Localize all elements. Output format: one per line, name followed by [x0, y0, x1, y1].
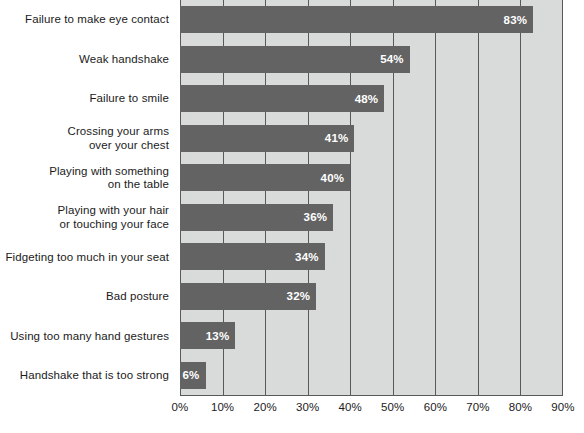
bar-row: 41% — [180, 119, 562, 159]
bar-row: 6% — [180, 356, 562, 396]
x-tick-label: 40% — [339, 401, 362, 413]
x-tick-label: 50% — [381, 401, 404, 413]
bar-row: 48% — [180, 79, 562, 119]
bar: 32% — [180, 283, 316, 310]
bar-row: 83% — [180, 0, 562, 40]
category-label: Failure to make eye contact — [0, 0, 176, 40]
bar-row: 34% — [180, 237, 562, 277]
bar-value-label: 41% — [325, 132, 355, 144]
bar-value-label: 32% — [287, 290, 317, 302]
x-tick-label: 10% — [211, 401, 234, 413]
bar: 40% — [180, 164, 350, 191]
category-label: Handshake that is too strong — [0, 356, 176, 396]
bar-row: 32% — [180, 277, 562, 317]
bars-layer: 83%54%48%41%40%36%34%32%13%6% — [180, 0, 562, 395]
x-tick-label: 90% — [551, 401, 574, 413]
bar-row: 54% — [180, 40, 562, 80]
category-label: Fidgeting too much in your seat — [0, 238, 176, 278]
bar-value-label: 48% — [355, 93, 385, 105]
category-label: Playing with something on the table — [0, 158, 176, 198]
bar: 41% — [180, 125, 354, 152]
category-label: Weak handshake — [0, 40, 176, 80]
x-tick-label: 30% — [296, 401, 319, 413]
bar-value-label: 13% — [206, 330, 236, 342]
plot-area: 83%54%48%41%40%36%34%32%13%6% — [180, 0, 563, 396]
bar-row: 40% — [180, 158, 562, 198]
x-tick-label: 70% — [466, 401, 489, 413]
category-label: Failure to smile — [0, 79, 176, 119]
category-label: Bad posture — [0, 277, 176, 317]
bar-row: 36% — [180, 198, 562, 238]
bar-value-label: 54% — [380, 53, 410, 65]
x-tick-label: 80% — [509, 401, 532, 413]
bar: 48% — [180, 85, 384, 112]
x-tick-label: 0% — [172, 401, 189, 413]
bar: 6% — [180, 362, 206, 389]
bar: 34% — [180, 243, 325, 270]
x-tick-label: 60% — [424, 401, 447, 413]
bar-value-label: 6% — [183, 369, 206, 381]
bar-value-label: 36% — [304, 211, 334, 223]
bar: 83% — [180, 6, 533, 33]
bar: 13% — [180, 322, 235, 349]
bar: 36% — [180, 204, 333, 231]
x-axis: 0%10%20%30%40%50%60%70%80%90% — [180, 397, 563, 427]
category-label: Playing with your hair or touching your … — [0, 198, 176, 238]
x-tick-label: 20% — [253, 401, 276, 413]
category-label: Using too many hand gestures — [0, 317, 176, 357]
bar-row: 13% — [180, 316, 562, 356]
bar: 54% — [180, 46, 410, 73]
category-label: Crossing your arms over your chest — [0, 119, 176, 159]
bar-value-label: 40% — [321, 172, 351, 184]
gridline — [562, 0, 563, 395]
bar-value-label: 83% — [504, 14, 534, 26]
bar-chart: Failure to make eye contactWeak handshak… — [0, 0, 584, 433]
bar-value-label: 34% — [295, 251, 325, 263]
category-label-column: Failure to make eye contactWeak handshak… — [0, 0, 176, 396]
